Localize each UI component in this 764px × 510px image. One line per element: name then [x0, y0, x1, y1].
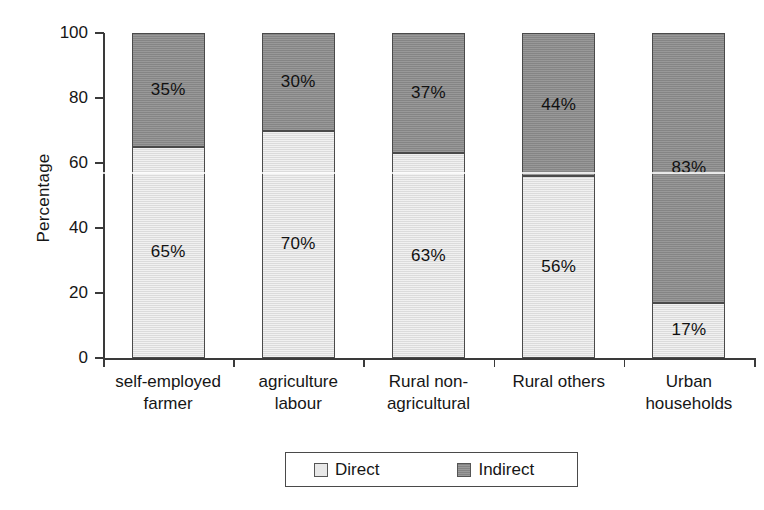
- legend-label-direct: Direct: [335, 460, 379, 480]
- bar-value-label-indirect: 30%: [263, 72, 334, 92]
- y-axis-tick-mark: [95, 162, 104, 164]
- bar-group[interactable]: 83%17%: [652, 33, 725, 358]
- x-axis-tick-mark: [494, 358, 496, 367]
- y-axis-tick-label: 0: [30, 349, 88, 366]
- x-axis-category-label: Rural others: [488, 371, 630, 393]
- legend-swatch-indirect-icon: [457, 463, 471, 477]
- y-axis-tick-label: 60: [30, 154, 88, 171]
- category-label-line1: agriculture: [227, 371, 369, 393]
- x-axis-category-label: Urbanhouseholds: [618, 371, 760, 416]
- bar-value-label-direct: 65%: [133, 242, 204, 262]
- bar-group[interactable]: 30%70%: [262, 33, 335, 358]
- category-label-line1: Rural others: [488, 371, 630, 393]
- bar-segment-indirect[interactable]: 37%: [392, 33, 465, 153]
- y-axis-tick-label: 20: [30, 284, 88, 301]
- y-axis-tick-label: 80: [30, 89, 88, 106]
- bar-segment-indirect[interactable]: 30%: [262, 33, 335, 131]
- legend-item-indirect[interactable]: Indirect: [457, 460, 534, 480]
- legend-swatch-direct-icon: [314, 463, 328, 477]
- bar-segment-indirect[interactable]: 44%: [522, 33, 595, 176]
- stacked-bar-chart: Percentage 020406080100 35%65%30%70%37%6…: [0, 0, 764, 510]
- x-axis-tick-mark: [754, 358, 756, 367]
- bar-value-label-direct: 17%: [653, 320, 724, 340]
- category-label-line2: agricultural: [357, 393, 499, 415]
- bar-value-label-direct: 63%: [393, 246, 464, 266]
- legend-item-direct[interactable]: Direct: [314, 460, 379, 480]
- bar-segment-indirect[interactable]: 35%: [132, 33, 205, 147]
- bar-value-label-direct: 70%: [263, 234, 334, 254]
- bar-value-label-indirect: 35%: [133, 80, 204, 100]
- y-axis-tick-mark: [95, 292, 104, 294]
- x-axis-tick-mark: [624, 358, 626, 367]
- x-axis-line: [103, 358, 754, 360]
- category-label-line1: self-employed: [97, 371, 239, 393]
- chart-legend: Direct Indirect: [285, 452, 578, 487]
- bar-group[interactable]: 35%65%: [132, 33, 205, 358]
- x-axis-category-label: Rural non-agricultural: [357, 371, 499, 416]
- y-axis-line: [103, 33, 105, 359]
- bar-segment-indirect[interactable]: 83%: [652, 33, 725, 303]
- bar-group[interactable]: 44%56%: [522, 33, 595, 358]
- category-label-line2: farmer: [97, 393, 239, 415]
- x-axis-category-label: self-employedfarmer: [97, 371, 239, 416]
- category-label-line2: labour: [227, 393, 369, 415]
- bar-value-label-indirect: 44%: [523, 95, 594, 115]
- y-axis-tick-label: 100: [30, 24, 88, 41]
- category-label-line1: Rural non-: [357, 371, 499, 393]
- legend-label-indirect: Indirect: [478, 460, 534, 480]
- category-label-line2: households: [618, 393, 760, 415]
- bar-segment-direct[interactable]: 70%: [262, 131, 335, 359]
- category-label-line1: Urban: [618, 371, 760, 393]
- bar-segment-direct[interactable]: 56%: [522, 176, 595, 358]
- scanline-artifact: [0, 172, 764, 174]
- y-axis-tick-mark: [95, 227, 104, 229]
- bar-segment-direct[interactable]: 63%: [392, 153, 465, 358]
- bar-value-label-direct: 56%: [523, 257, 594, 277]
- bar-segment-direct[interactable]: 65%: [132, 147, 205, 358]
- bar-segment-direct[interactable]: 17%: [652, 303, 725, 358]
- x-axis-tick-mark: [103, 358, 105, 367]
- x-axis-tick-mark: [363, 358, 365, 367]
- y-axis-tick-mark: [95, 97, 104, 99]
- x-axis-category-label: agriculturelabour: [227, 371, 369, 416]
- x-axis-tick-mark: [233, 358, 235, 367]
- bar-value-label-indirect: 37%: [393, 83, 464, 103]
- y-axis-tick-mark: [95, 32, 104, 34]
- bar-value-label-indirect: 83%: [653, 158, 724, 178]
- y-axis-tick-label: 40: [30, 219, 88, 236]
- bar-group[interactable]: 37%63%: [392, 33, 465, 358]
